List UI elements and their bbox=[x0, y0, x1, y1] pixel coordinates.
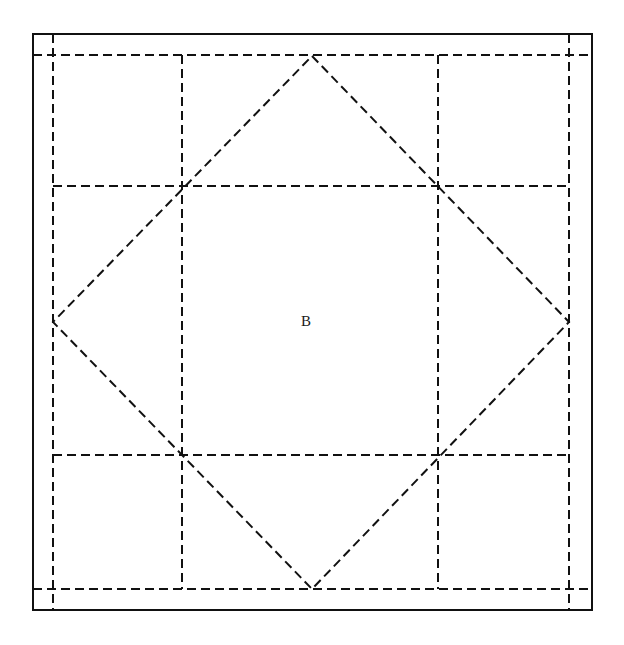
solid-border-group bbox=[33, 34, 592, 610]
solid-outer-square bbox=[33, 34, 592, 610]
region-label-b: B bbox=[301, 314, 311, 329]
dashed-grid-group bbox=[33, 34, 592, 610]
geometry-diagram bbox=[0, 0, 624, 645]
figure-canvas: B bbox=[0, 0, 624, 645]
